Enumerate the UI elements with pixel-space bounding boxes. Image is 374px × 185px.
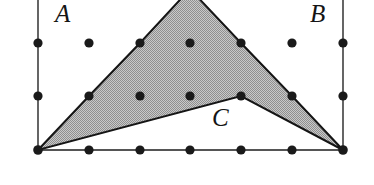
lattice-dot [135,91,144,100]
lattice-dot [287,145,296,154]
lattice-dot [33,91,42,100]
lattice-dot [236,38,245,47]
lattice-dot [33,145,43,155]
lattice-dot [287,38,296,47]
lattice-dot [135,38,144,47]
figure-canvas [0,0,374,185]
lattice-dot [236,145,245,154]
vertex-label-a: A [55,1,70,26]
lattice-dot [84,91,93,100]
lattice-figure: A B C [0,0,374,185]
vertex-label-c: C [212,105,229,130]
lattice-dot [33,38,42,47]
lattice-dot [185,38,194,47]
lattice-dot [84,38,93,47]
lattice-dot [135,145,144,154]
lattice-dot [338,91,347,100]
lattice-dot [236,91,245,100]
lattice-dot [84,145,93,154]
lattice-dot [287,91,296,100]
lattice-dot [338,145,348,155]
vertex-label-b: B [310,1,325,26]
lattice-dot [185,145,194,154]
lattice-dot [338,38,347,47]
lattice-dot [185,91,194,100]
